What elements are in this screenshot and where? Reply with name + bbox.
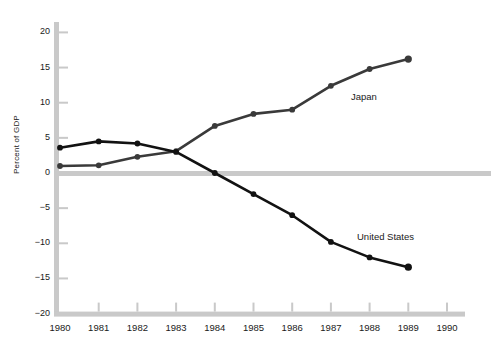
y-axis-tick <box>59 137 68 139</box>
x-axis-tick <box>407 303 409 312</box>
data-point <box>289 107 295 113</box>
x-axis-tick <box>446 303 448 312</box>
x-axis-tick <box>330 303 332 312</box>
data-point <box>96 139 102 145</box>
data-point <box>328 83 334 89</box>
y-axis-tick <box>59 207 68 209</box>
data-point <box>173 149 179 155</box>
series-line <box>60 141 408 267</box>
series-annotation-united-states: United States <box>357 231 414 242</box>
y-axis-tick <box>59 67 68 69</box>
data-point <box>405 56 412 63</box>
x-axis-tick <box>291 303 293 312</box>
data-series-united-states <box>57 139 412 271</box>
x-axis-tick <box>98 303 100 312</box>
data-point <box>135 154 141 160</box>
x-axis-spine <box>54 312 465 317</box>
data-point <box>212 123 218 129</box>
plot-area <box>0 0 497 348</box>
data-point <box>405 264 412 271</box>
data-point <box>57 163 63 169</box>
y-axis-spine <box>54 22 59 316</box>
x-axis-tick <box>253 303 255 312</box>
data-point <box>251 191 257 197</box>
y-axis-tick <box>59 102 68 104</box>
data-point <box>96 162 102 168</box>
chart-figure: Percent of GDP 20151050−5−10−15−20 19801… <box>0 0 497 348</box>
series-line <box>60 59 408 166</box>
data-series-japan <box>57 56 412 169</box>
data-point <box>289 212 295 218</box>
data-point <box>367 66 373 72</box>
data-point <box>135 141 141 147</box>
data-point <box>212 170 218 176</box>
x-axis-tick <box>369 303 371 312</box>
data-point <box>57 145 63 151</box>
x-axis-tick <box>175 303 177 312</box>
data-point <box>328 239 334 245</box>
data-point <box>367 255 373 261</box>
x-axis-tick <box>214 303 216 312</box>
data-point <box>251 111 257 117</box>
x-axis-tick <box>136 303 138 312</box>
zero-reference-line <box>54 171 491 176</box>
y-axis-tick <box>59 277 68 279</box>
series-annotation-japan: Japan <box>351 91 377 102</box>
y-axis-tick <box>59 242 68 244</box>
y-axis-tick <box>59 31 68 33</box>
